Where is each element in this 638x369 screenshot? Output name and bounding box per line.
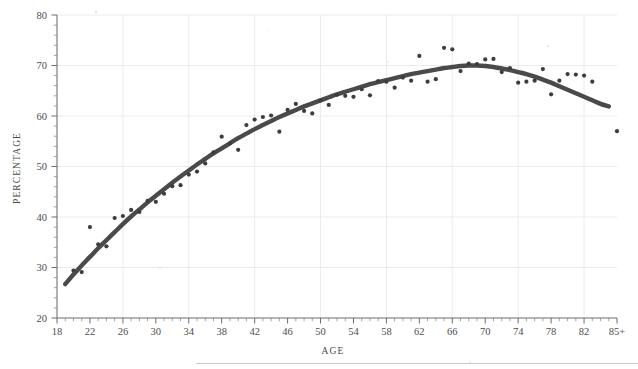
data-point xyxy=(195,169,199,173)
data-point xyxy=(228,141,232,145)
chart-figure: 182226303438424650545862667074788285+ 20… xyxy=(0,0,638,369)
data-point xyxy=(565,72,569,76)
x-tick-label: 18 xyxy=(52,326,63,337)
data-point xyxy=(557,79,561,83)
data-point xyxy=(516,81,520,85)
data-point xyxy=(384,80,388,84)
data-point xyxy=(104,244,108,248)
paper-speck xyxy=(267,29,268,30)
data-point xyxy=(88,225,92,229)
data-point xyxy=(524,80,528,84)
data-point xyxy=(360,87,364,91)
paper-speck xyxy=(469,361,470,362)
data-point xyxy=(335,93,339,97)
y-tick-label: 80 xyxy=(37,10,48,21)
x-tick-label: 54 xyxy=(348,326,359,337)
x-tick-label: 82 xyxy=(579,326,590,337)
x-tick-label: 66 xyxy=(447,326,458,337)
x-tick-label: 38 xyxy=(216,326,227,337)
x-tick-label: 85+ xyxy=(609,326,626,337)
data-point xyxy=(582,74,586,78)
paper-speck xyxy=(159,267,161,269)
data-point xyxy=(154,200,158,204)
data-point xyxy=(294,102,298,106)
x-axis-title: AGE xyxy=(322,346,345,356)
chart-background xyxy=(0,0,638,369)
data-point xyxy=(376,79,380,83)
x-tick-label: 58 xyxy=(381,326,392,337)
data-point xyxy=(574,72,578,76)
data-point xyxy=(483,57,487,61)
data-point xyxy=(500,70,504,74)
data-point xyxy=(615,129,619,133)
data-point xyxy=(491,57,495,61)
data-point xyxy=(187,172,191,176)
data-point xyxy=(318,98,322,102)
data-point xyxy=(113,216,117,220)
x-tick-label: 22 xyxy=(85,326,96,337)
data-point xyxy=(302,109,306,113)
data-point xyxy=(351,95,355,99)
data-point xyxy=(203,161,207,165)
data-point xyxy=(434,77,438,81)
data-point xyxy=(244,123,248,127)
y-axis-title: PERCENTAGE xyxy=(12,132,22,204)
data-point xyxy=(549,92,553,96)
data-point xyxy=(170,184,174,188)
data-point xyxy=(541,67,545,71)
x-tick-label: 34 xyxy=(184,326,195,337)
data-point xyxy=(401,76,405,80)
data-point xyxy=(71,268,75,272)
data-point xyxy=(475,62,479,66)
data-point xyxy=(178,183,182,187)
data-point xyxy=(450,47,454,51)
y-tick-label: 60 xyxy=(37,111,48,122)
data-point xyxy=(121,214,125,218)
y-tick-label: 40 xyxy=(37,212,48,223)
percentage-by-age-scatter-chart: 182226303438424650545862667074788285+ 20… xyxy=(0,0,638,369)
data-point xyxy=(425,80,429,84)
data-point xyxy=(467,61,471,65)
data-point xyxy=(211,150,215,154)
paper-speck xyxy=(95,11,97,13)
data-point xyxy=(261,115,265,119)
data-point xyxy=(343,94,347,98)
data-point xyxy=(220,135,224,139)
x-tick-label: 42 xyxy=(249,326,260,337)
data-point xyxy=(533,79,537,83)
y-tick-label: 70 xyxy=(37,60,48,71)
y-tick-label: 50 xyxy=(37,161,48,172)
data-point xyxy=(96,242,100,246)
data-point xyxy=(253,117,257,121)
x-tick-label: 50 xyxy=(315,326,326,337)
data-point xyxy=(269,113,273,117)
data-point xyxy=(80,270,84,274)
paper-speck xyxy=(547,45,549,47)
y-tick-label: 20 xyxy=(37,313,48,324)
x-tick-label: 26 xyxy=(118,326,129,337)
data-point xyxy=(236,148,240,152)
x-tick-label: 70 xyxy=(480,326,491,337)
data-point xyxy=(129,208,133,212)
x-tick-label: 46 xyxy=(282,326,293,337)
paper-speck xyxy=(387,61,389,63)
data-point xyxy=(508,66,512,70)
data-point xyxy=(409,79,413,83)
data-point xyxy=(145,199,149,203)
x-tick-label: 62 xyxy=(414,326,425,337)
data-point xyxy=(162,192,166,196)
data-point xyxy=(310,111,314,115)
data-point xyxy=(285,108,289,112)
x-tick-label: 74 xyxy=(513,326,524,337)
data-point xyxy=(277,130,281,134)
data-point xyxy=(327,103,331,107)
data-point xyxy=(590,80,594,84)
paper-speck xyxy=(245,139,246,140)
data-point xyxy=(458,69,462,73)
x-tick-label: 30 xyxy=(151,326,162,337)
data-point xyxy=(393,86,397,90)
data-point xyxy=(368,93,372,97)
y-tick-label: 30 xyxy=(37,262,48,273)
data-point xyxy=(442,46,446,50)
data-point xyxy=(417,54,421,58)
